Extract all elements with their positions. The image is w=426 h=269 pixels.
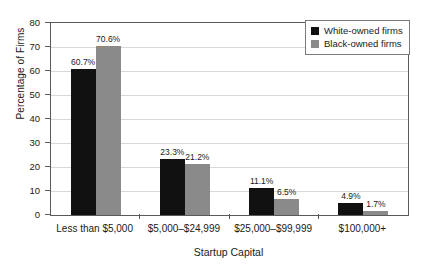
- bar: [160, 159, 185, 215]
- legend-item: White-owned firms: [311, 24, 403, 37]
- bar: [96, 46, 121, 215]
- legend: White-owned firmsBlack-owned firms: [305, 20, 410, 55]
- bar-chart: Percentage of Firms Startup Capital 0102…: [0, 0, 426, 269]
- legend-item: Black-owned firms: [311, 37, 403, 50]
- x-tick-mark: [229, 214, 230, 219]
- x-tick-mark: [139, 214, 140, 219]
- legend-swatch-icon: [311, 27, 319, 35]
- y-tick-label: 20: [0, 161, 40, 172]
- bar-value-label: 6.5%: [277, 187, 296, 197]
- bar: [249, 188, 274, 215]
- bar-value-label: 4.9%: [341, 191, 360, 201]
- bar: [338, 203, 363, 215]
- bar-value-label: 60.7%: [71, 57, 95, 67]
- bar: [363, 211, 388, 215]
- legend-label: Black-owned firms: [324, 38, 402, 49]
- bar-value-label: 1.7%: [366, 199, 385, 209]
- bar-value-label: 21.2%: [185, 152, 209, 162]
- x-category-label: $100,000+: [339, 223, 387, 234]
- y-tick-label: 30: [0, 137, 40, 148]
- y-tick-label: 60: [0, 65, 40, 76]
- y-tick-label: 40: [0, 113, 40, 124]
- x-category-label: Less than $5,000: [56, 223, 133, 234]
- bar: [185, 164, 210, 215]
- x-category-label: $5,000–$24,999: [148, 223, 220, 234]
- y-tick-label: 10: [0, 185, 40, 196]
- x-category-label: $25,000–$99,999: [234, 223, 312, 234]
- legend-swatch-icon: [311, 40, 319, 48]
- legend-label: White-owned firms: [324, 25, 403, 36]
- y-tick-label: 80: [0, 17, 40, 28]
- bar: [71, 69, 96, 215]
- bar: [274, 199, 299, 215]
- bar-value-label: 11.1%: [250, 176, 273, 186]
- y-tick-label: 0: [0, 209, 40, 220]
- y-tick-label: 70: [0, 41, 40, 52]
- bar-value-label: 70.6%: [96, 34, 120, 44]
- x-tick-mark: [318, 214, 319, 219]
- x-axis-title: Startup Capital: [50, 246, 407, 258]
- bar-value-label: 23.3%: [160, 147, 184, 157]
- y-tick-label: 50: [0, 89, 40, 100]
